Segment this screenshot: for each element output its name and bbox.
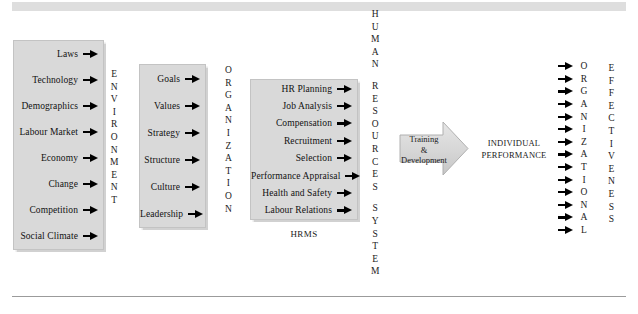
effectiveness-letter: V: [608, 150, 615, 163]
box-row: Laws: [14, 49, 103, 59]
box-row: Culture: [140, 182, 205, 192]
environment-vertical-label: ENVIRONMENT: [110, 68, 119, 207]
organizational-arrow-row: A: [553, 211, 589, 224]
right-arrow-icon: [83, 76, 98, 85]
box-item-label: Values: [154, 101, 180, 111]
human-resources-system-letter: O: [372, 118, 379, 131]
human-resources-system-vertical-label: HUMANRESOURCESSYSTEM: [371, 8, 380, 278]
right-arrow-icon: [558, 175, 573, 184]
organizational-letter: A: [579, 99, 589, 109]
human-resources-system-letter: C: [372, 156, 379, 169]
box-item-label: Social Climate: [20, 231, 78, 241]
human-resources-system-letter: S: [373, 105, 379, 118]
box-item-label: Economy: [41, 153, 78, 163]
box-row: Health and Safety: [251, 188, 357, 198]
environment-letter: R: [111, 118, 118, 131]
organizational-letter: A: [579, 149, 589, 159]
box-item-label: Goals: [157, 74, 180, 84]
environment-letter: N: [111, 181, 118, 194]
effectiveness-letter: T: [609, 125, 615, 138]
individual-performance-line-2: PERFORMANCE: [478, 150, 550, 162]
box-row: HR Planning: [251, 84, 357, 94]
environment-letter: E: [111, 169, 117, 182]
effectiveness-letter: S: [609, 201, 615, 214]
right-arrow-icon: [185, 128, 200, 137]
organization-letter: N: [225, 203, 232, 216]
box-row: Technology: [14, 75, 103, 85]
box-item-label: Structure: [144, 155, 180, 165]
box-row: Job Analysis: [251, 101, 357, 111]
organization-box: GoalsValuesStrategyStructureCultureLeade…: [139, 64, 206, 228]
human-resources-system-letter: M: [371, 33, 380, 46]
right-arrow-icon: [185, 101, 200, 110]
human-resources-system-letter: R: [372, 143, 379, 156]
box-item-label: Labour Market: [19, 127, 78, 137]
organizational-letter: L: [579, 225, 589, 235]
box-row: Change: [14, 179, 103, 189]
box-row: Labour Market: [14, 127, 103, 137]
box-row: Economy: [14, 153, 103, 163]
right-arrow-icon: [558, 62, 573, 71]
box-row: Leadership: [140, 209, 205, 219]
box-item-label: Recruitment: [284, 136, 332, 146]
box-item-label: Demographics: [21, 101, 78, 111]
right-arrow-icon: [83, 154, 98, 163]
training-development-arrow: Training & Development: [399, 121, 469, 176]
organizational-letter: I: [579, 124, 589, 134]
human-resources-system-letter: E: [372, 93, 378, 106]
box-item-label: Culture: [151, 182, 180, 192]
environment-letter: V: [111, 93, 118, 106]
organizational-arrow-row: I: [553, 173, 589, 186]
box-row: Goals: [140, 74, 205, 84]
effectiveness-letter: N: [608, 175, 615, 188]
environment-letter: E: [111, 68, 117, 81]
box-row: Recruitment: [251, 136, 357, 146]
effectiveness-letter: E: [609, 163, 615, 176]
organizational-letter: G: [579, 86, 589, 96]
box-item-label: Health and Safety: [262, 188, 332, 198]
human-resources-system-letter: R: [372, 80, 379, 93]
hrms-box: HR PlanningJob AnalysisCompensationRecru…: [250, 79, 358, 220]
diagram-canvas: LawsTechnologyDemographicsLabour MarketE…: [0, 0, 638, 314]
box-row: Social Climate: [14, 231, 103, 241]
box-row: Competition: [14, 205, 103, 215]
right-arrow-icon: [337, 188, 352, 197]
right-arrow-icon: [337, 136, 352, 145]
training-line-1: Training: [399, 134, 449, 145]
organization-letter: O: [225, 190, 232, 203]
human-resources-system-letter: T: [372, 240, 378, 253]
right-arrow-icon: [83, 180, 98, 189]
box-item-label: Change: [48, 179, 78, 189]
right-arrow-icon: [83, 50, 98, 59]
organizational-letter: A: [579, 212, 589, 222]
organizational-letter: N: [579, 200, 589, 210]
organizational-arrow-row: G: [553, 85, 589, 98]
right-arrow-icon: [337, 84, 352, 93]
environment-letter: O: [111, 131, 118, 144]
effectiveness-letter: C: [608, 112, 615, 125]
organization-letter: N: [225, 114, 232, 127]
human-resources-system-letter: H: [372, 8, 379, 21]
right-arrow-icon: [188, 209, 200, 218]
organization-letter: G: [225, 89, 232, 102]
effectiveness-letter: S: [609, 213, 615, 226]
individual-performance-label: INDIVIDUAL PERFORMANCE: [478, 138, 550, 161]
organizational-arrow-row: L: [553, 224, 589, 237]
bottom-horizontal-rule: [12, 296, 626, 297]
organizational-arrow-row: Z: [553, 136, 589, 149]
hrms-caption: HRMS: [250, 229, 358, 239]
organization-letter: T: [226, 165, 232, 178]
top-decorative-bar: [12, 2, 626, 11]
organizational-letter: Z: [579, 137, 589, 147]
right-arrow-icon: [83, 206, 98, 215]
organization-letter: I: [227, 127, 230, 140]
right-arrow-icon: [337, 154, 352, 163]
effectiveness-letter: E: [609, 100, 615, 113]
right-arrow-icon: [337, 119, 352, 128]
organizational-arrow-row: I: [553, 123, 589, 136]
organizational-letter: O: [579, 61, 589, 71]
human-resources-system-letter: A: [372, 46, 379, 59]
box-item-label: Job Analysis: [283, 101, 333, 111]
human-resources-system-letter: M: [371, 265, 380, 278]
environment-letter: M: [110, 156, 119, 169]
